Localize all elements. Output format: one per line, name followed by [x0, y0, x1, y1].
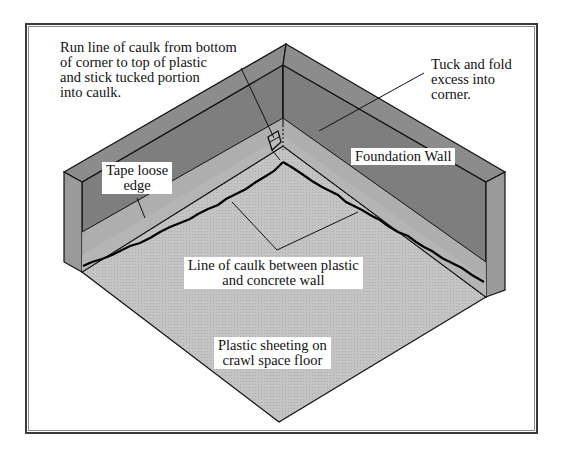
- label-tape-edge: Tape loose edge: [102, 162, 172, 194]
- right-wall-end: [486, 172, 505, 297]
- label-caulk-corner: Run line of caulk from bottom of corner …: [60, 40, 237, 100]
- label-line: Tuck and fold: [431, 57, 512, 72]
- label-line: corner.: [431, 87, 512, 102]
- label-line: into caulk.: [60, 85, 237, 100]
- label-line: excess into: [431, 72, 512, 87]
- label-line: Foundation Wall: [355, 148, 451, 164]
- label-line: Run line of caulk from bottom: [60, 40, 237, 55]
- label-line: edge: [106, 178, 168, 193]
- label-caulk-line: Line of caulk between plastic and concre…: [184, 257, 363, 289]
- label-line: Line of caulk between plastic: [188, 258, 359, 273]
- left-wall-end: [64, 172, 82, 272]
- label-line: crawl space floor: [218, 353, 327, 368]
- label-tuck-fold: Tuck and fold excess into corner.: [431, 57, 512, 102]
- label-plastic-floor: Plastic sheeting on crawl space floor: [214, 337, 331, 369]
- label-line: of corner to top of plastic: [60, 55, 237, 70]
- label-foundation-wall: Foundation Wall: [351, 148, 455, 165]
- label-line: Plastic sheeting on: [218, 338, 327, 353]
- label-line: and stick tucked portion: [60, 70, 237, 85]
- label-line: Tape loose: [106, 163, 168, 178]
- label-line: and concrete wall: [188, 273, 359, 288]
